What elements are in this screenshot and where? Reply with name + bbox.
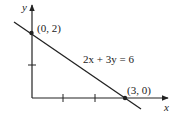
point-3-0 [123, 96, 127, 100]
equation-label: 2x + 3y = 6 [83, 53, 134, 65]
point-label-0-2: (0, 2) [37, 22, 61, 35]
point-0-2 [29, 31, 33, 35]
point-label-3-0: (3, 0) [127, 84, 151, 97]
graph-canvas: y x (0, 2) (3, 0) 2x + 3y = 6 [0, 0, 183, 123]
x-axis-label: x [163, 101, 169, 113]
y-axis-label: y [21, 1, 27, 13]
